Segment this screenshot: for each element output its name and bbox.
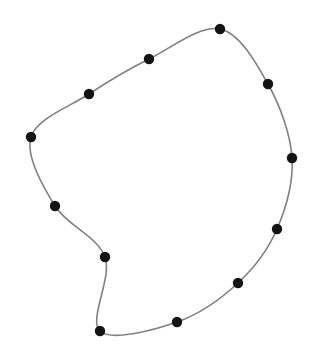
closed-curve-plot <box>0 0 311 352</box>
vertex-marker <box>144 54 154 64</box>
vertex-marker <box>100 252 110 262</box>
figure-canvas <box>0 0 311 352</box>
vertex-marker <box>215 24 225 34</box>
vertex-marker <box>50 201 60 211</box>
vertex-marker <box>84 89 94 99</box>
vertex-marker <box>233 278 243 288</box>
vertex-marker <box>26 132 36 142</box>
vertex-marker <box>95 326 105 336</box>
plot-background <box>0 0 311 352</box>
vertex-marker <box>272 224 282 234</box>
vertex-marker <box>287 153 297 163</box>
vertex-marker <box>172 317 182 327</box>
vertex-marker <box>263 79 273 89</box>
